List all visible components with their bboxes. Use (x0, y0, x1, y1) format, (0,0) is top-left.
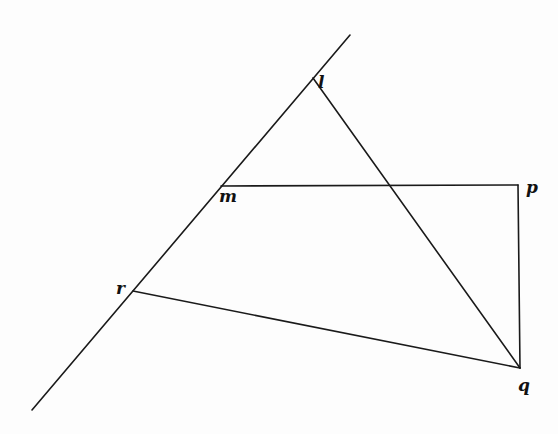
label-r: r (116, 278, 126, 298)
label-l: l (318, 72, 325, 92)
segment-rq (133, 291, 520, 368)
label-m: m (219, 186, 237, 206)
label-q: q (518, 375, 530, 395)
transversal-line (32, 35, 350, 410)
segment-pq (518, 185, 520, 368)
label-p: p (526, 177, 538, 197)
segment-mp (221, 185, 518, 186)
segment-lq (313, 78, 520, 368)
geometry-diagram: l m p r q (0, 0, 558, 434)
